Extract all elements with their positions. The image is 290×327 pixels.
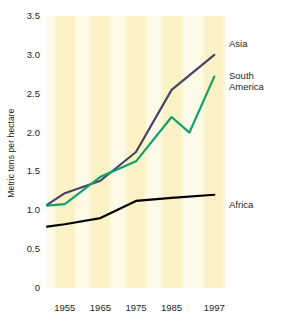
series-line-asia [47, 55, 214, 205]
x-tick-label: 1965 [80, 303, 120, 313]
y-tick-label: 2.0 [14, 128, 40, 138]
x-tick-label: 1997 [194, 303, 234, 313]
x-tick-label: 1985 [152, 303, 192, 313]
series-label-south-america: South America [229, 70, 264, 92]
series-line-south-america [47, 77, 214, 206]
y-axis-ticks: 00.51.01.52.02.53.03.5 [12, 0, 40, 327]
y-tick-label: 1.5 [14, 166, 40, 176]
series-label-asia: Asia [229, 38, 247, 49]
series-label-africa: Africa [229, 199, 253, 210]
chart-container: Metric tons per hectare 00.51.01.52.02.5… [0, 0, 290, 327]
x-tick-label: 1955 [45, 303, 85, 313]
y-tick-label: 1.0 [14, 205, 40, 215]
y-tick-label: 0 [14, 283, 40, 293]
series-lines [47, 16, 225, 288]
x-tick-label: 1975 [116, 303, 156, 313]
y-tick-label: 3.5 [14, 11, 40, 21]
plot-area [47, 16, 225, 288]
y-tick-label: 2.5 [14, 89, 40, 99]
y-tick-label: 3.0 [14, 50, 40, 60]
y-tick-label: 0.5 [14, 244, 40, 254]
